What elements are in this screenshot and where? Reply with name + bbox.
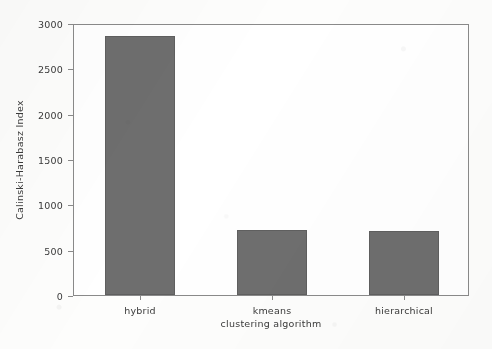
bar <box>105 36 175 295</box>
x-axis-tick-label: kmeans <box>253 305 292 316</box>
y-axis-tick <box>68 296 73 297</box>
bar <box>369 231 439 295</box>
x-axis-tick-label: hybrid <box>124 305 155 316</box>
x-axis-tick <box>272 295 273 300</box>
y-axis-tick-label: 3000 <box>0 19 63 30</box>
y-axis-tick-label: 0 <box>0 291 63 302</box>
bar <box>237 230 307 295</box>
y-axis-tick-label: 2500 <box>0 64 63 75</box>
y-axis-tick-label: 1000 <box>0 200 63 211</box>
y-axis-tick-label: 500 <box>0 245 63 256</box>
plot-area: hybridkmeanshierarchical <box>73 24 469 296</box>
y-axis-tick-label: 1500 <box>0 155 63 166</box>
x-axis-title: clustering algorithm <box>221 318 322 329</box>
x-axis-tick-label: hierarchical <box>375 305 433 316</box>
x-axis-tick <box>404 295 405 300</box>
x-axis-tick <box>140 295 141 300</box>
y-axis-tick-label: 2000 <box>0 109 63 120</box>
bar-chart-figure: Calinski-Harabasz Index 0500100015002000… <box>0 0 492 349</box>
